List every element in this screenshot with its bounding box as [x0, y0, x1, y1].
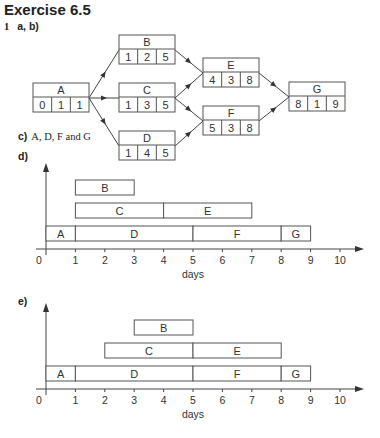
- gantt-bar-f: F: [193, 366, 281, 381]
- bar-label: G: [292, 228, 301, 240]
- gantt-bar-f: F: [193, 226, 281, 241]
- node-label: B: [143, 36, 150, 48]
- node-label: A: [57, 84, 65, 96]
- bar-label: E: [204, 205, 211, 217]
- activity-network-diagram: A011B125C135D145E438F538G819: [0, 0, 380, 170]
- bar-label: D: [130, 368, 138, 380]
- x-tick-label: 5: [190, 254, 196, 266]
- node-value: 8: [247, 74, 253, 86]
- node-g: G819: [289, 82, 345, 111]
- bar-label: C: [145, 345, 153, 357]
- node-value: 3: [228, 74, 234, 86]
- node-d: D145: [119, 131, 175, 160]
- gantt-bar-g: G: [281, 226, 310, 241]
- x-tick-label: 9: [308, 394, 314, 406]
- node-label: E: [227, 59, 234, 71]
- x-tick-label: 10: [334, 394, 346, 406]
- node-value: 1: [58, 99, 64, 111]
- node-value: 4: [209, 74, 215, 86]
- bar-label: F: [234, 228, 241, 240]
- gantt-bar-b: B: [134, 320, 193, 335]
- gantt-chart-d: 012345678910daysADFGCEB: [0, 160, 380, 305]
- bar-label: D: [130, 228, 138, 240]
- node-value: 2: [144, 51, 150, 63]
- node-label: G: [313, 83, 322, 95]
- node-e: E438: [203, 58, 259, 87]
- gantt-bar-g: G: [281, 366, 310, 381]
- node-value: 5: [163, 147, 169, 159]
- gantt-bar-d: D: [75, 366, 193, 381]
- arrowhead-icon: [101, 95, 107, 100]
- gantt-bar-b: B: [75, 180, 134, 195]
- node-value: 1: [314, 98, 320, 110]
- node-value: 5: [209, 122, 215, 134]
- x-tick-label: 8: [278, 394, 284, 406]
- node-value: 3: [228, 122, 234, 134]
- x-tick-label: 8: [278, 254, 284, 266]
- x-tick-label: 0: [36, 394, 42, 406]
- x-axis-arrow-icon: [355, 386, 364, 392]
- node-value: 5: [163, 99, 169, 111]
- node-value: 4: [144, 147, 150, 159]
- node-label: C: [143, 84, 151, 96]
- y-axis-arrow-icon: [43, 303, 49, 312]
- bar-label: B: [101, 182, 108, 194]
- x-tick-label: 1: [72, 394, 78, 406]
- bar-label: F: [234, 368, 241, 380]
- x-tick-label: 7: [249, 394, 255, 406]
- x-tick-label: 6: [219, 394, 225, 406]
- node-f: F538: [203, 106, 259, 135]
- x-tick-label: 2: [102, 254, 108, 266]
- x-tick-label: 7: [249, 254, 255, 266]
- node-value: 1: [77, 99, 83, 111]
- x-tick-label: 6: [219, 254, 225, 266]
- x-axis-label: days: [182, 268, 204, 280]
- bar-label: C: [116, 205, 124, 217]
- bar-label: G: [292, 368, 301, 380]
- node-b: B125: [119, 35, 175, 64]
- node-value: 9: [333, 98, 339, 110]
- node-value: 1: [125, 99, 131, 111]
- x-axis-label: days: [182, 408, 204, 420]
- x-tick-label: 5: [190, 394, 196, 406]
- node-value: 5: [163, 51, 169, 63]
- gantt-bar-a: A: [46, 366, 75, 381]
- x-tick-label: 3: [131, 394, 137, 406]
- arrowhead-icon: [100, 71, 105, 77]
- x-tick-label: 3: [131, 254, 137, 266]
- node-value: 8: [247, 122, 253, 134]
- bar-label: A: [57, 368, 65, 380]
- node-value: 1: [125, 51, 131, 63]
- gantt-bar-d: D: [75, 226, 193, 241]
- node-label: D: [143, 132, 151, 144]
- node-c: C135: [119, 83, 175, 112]
- x-tick-label: 4: [161, 394, 167, 406]
- node-value: 3: [144, 99, 150, 111]
- arrowhead-icon: [100, 118, 105, 124]
- node-a: A011: [33, 83, 89, 112]
- y-axis-arrow-icon: [43, 163, 49, 172]
- gantt-bar-a: A: [46, 226, 75, 241]
- gantt-bar-e: E: [193, 343, 281, 358]
- x-tick-label: 10: [334, 254, 346, 266]
- gantt-bar-e: E: [164, 203, 252, 218]
- bar-label: A: [57, 228, 65, 240]
- gantt-bar-c: C: [75, 203, 163, 218]
- node-value: 8: [295, 98, 301, 110]
- node-label: F: [228, 107, 235, 119]
- x-axis-arrow-icon: [355, 246, 364, 252]
- gantt-bar-c: C: [105, 343, 193, 358]
- node-value: 0: [39, 99, 45, 111]
- x-tick-label: 2: [102, 394, 108, 406]
- node-value: 1: [125, 147, 131, 159]
- x-tick-label: 0: [36, 254, 42, 266]
- x-tick-label: 1: [72, 254, 78, 266]
- gantt-chart-e: 012345678910daysADFGCEB: [0, 300, 380, 438]
- x-tick-label: 4: [161, 254, 167, 266]
- bar-label: E: [233, 345, 240, 357]
- bar-label: B: [160, 322, 167, 334]
- x-tick-label: 9: [308, 254, 314, 266]
